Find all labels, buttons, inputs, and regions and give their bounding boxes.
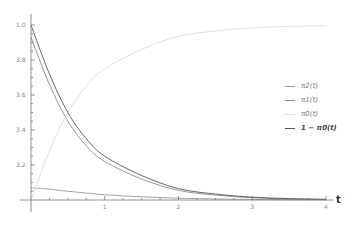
legend-swatch	[285, 114, 295, 115]
legend-label: π1(t)	[301, 96, 318, 104]
legend-label: π2(t)	[301, 82, 318, 90]
series-line	[31, 25, 326, 199]
legend-label: π0(t)	[301, 110, 318, 118]
y-tick-label: 3.4	[16, 126, 26, 133]
legend-item-pi0: π0(t)	[285, 110, 318, 118]
legend-swatch	[285, 128, 295, 129]
x-axis-label: t	[336, 194, 341, 205]
legend-label: 1 − π0(t)	[301, 124, 337, 132]
legend-item-pi1: π1(t)	[285, 96, 318, 104]
y-tick-label: 3.8	[16, 56, 26, 63]
y-ticks: 1.03.83.63.43.2	[16, 21, 35, 191]
y-tick-label: 3.6	[16, 91, 26, 98]
y-tick-label: 1.0	[16, 21, 26, 28]
legend-item-pi2: π2(t)	[285, 82, 318, 90]
series-line	[31, 37, 326, 199]
series-line	[31, 26, 326, 200]
x-tick-label: 4	[324, 203, 328, 210]
y-tick-label: 3.2	[16, 161, 26, 168]
legend-item-one-minus-pi0: 1 − π0(t)	[285, 124, 337, 132]
chart-curves	[31, 25, 326, 200]
x-tick-label: 1	[103, 203, 107, 210]
legend-swatch	[285, 86, 295, 87]
x-tick-label: 2	[177, 203, 181, 210]
x-tick-label: 3	[250, 203, 254, 210]
legend-swatch	[285, 100, 295, 101]
